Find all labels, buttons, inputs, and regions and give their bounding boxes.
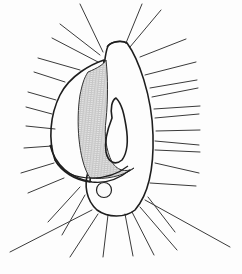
cilium-ray xyxy=(155,114,199,118)
cilium-ray xyxy=(154,106,200,109)
cilium-ray xyxy=(26,107,52,114)
cilium-ray xyxy=(103,215,108,257)
cilium-ray xyxy=(130,10,161,47)
cilium-ray xyxy=(126,4,142,43)
cilium-ray xyxy=(155,163,199,173)
cilium-ray xyxy=(125,214,133,256)
cilium-ray xyxy=(152,88,198,97)
cilium-ray xyxy=(60,24,100,55)
cilium-ray xyxy=(52,38,98,62)
cilium-ray xyxy=(132,212,154,255)
cilium-ray xyxy=(145,62,196,75)
protozoan-illustration xyxy=(0,0,242,274)
cilium-ray xyxy=(34,72,65,82)
cilium-ray xyxy=(155,150,200,152)
cilium-ray xyxy=(38,58,80,70)
cilium-ray xyxy=(150,183,196,186)
cilium-ray xyxy=(10,210,92,252)
cilium-ray xyxy=(21,163,54,173)
cilium-ray xyxy=(140,39,186,57)
cilium-ray xyxy=(145,200,230,247)
cilium-ray xyxy=(70,214,98,257)
drawing-canvas xyxy=(0,0,242,274)
cilium-ray xyxy=(150,80,197,88)
inner-band xyxy=(78,60,134,179)
cilium-ray xyxy=(48,187,80,222)
cilium-ray xyxy=(28,178,64,193)
cilium-ray xyxy=(155,141,199,145)
cilium-ray xyxy=(28,92,56,100)
vacuole xyxy=(97,183,112,198)
apical-cap xyxy=(107,42,127,47)
cilium-ray xyxy=(140,207,177,250)
cilium-ray xyxy=(80,4,103,52)
cilium-ray xyxy=(156,130,200,131)
cilium-ray xyxy=(24,146,52,148)
